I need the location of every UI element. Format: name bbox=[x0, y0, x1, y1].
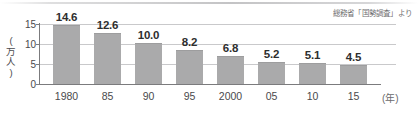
bar bbox=[176, 50, 203, 84]
y-tick-mark bbox=[36, 84, 40, 85]
y-tick-label: 15 bbox=[2, 19, 36, 30]
bar-value-label: 5.2 bbox=[249, 48, 295, 60]
y-axis-labels: 051015 bbox=[0, 0, 36, 114]
y-tick-label: 5 bbox=[2, 59, 36, 70]
bar-value-label: 6.8 bbox=[208, 42, 254, 54]
chart-page: 総務省「国勢調査」より ( 万 人 ) 051015 (年) 14.619801… bbox=[0, 0, 418, 114]
bar-value-label: 14.6 bbox=[44, 11, 90, 23]
x-tick-label: 15 bbox=[331, 90, 377, 102]
bar-value-label: 12.6 bbox=[85, 19, 131, 31]
x-axis-line bbox=[39, 84, 381, 85]
y-tick-mark bbox=[36, 44, 40, 45]
bar-value-label: 4.5 bbox=[331, 51, 377, 63]
bar bbox=[135, 43, 162, 84]
bar bbox=[94, 33, 121, 84]
y-tick-label: 10 bbox=[2, 39, 36, 50]
bar bbox=[217, 56, 244, 84]
x-tick-label: 1980 bbox=[44, 90, 90, 102]
x-tick-label: 85 bbox=[85, 90, 131, 102]
x-tick-label: 10 bbox=[290, 90, 336, 102]
bar bbox=[53, 25, 80, 84]
x-tick-label: 90 bbox=[126, 90, 172, 102]
x-tick-label: 05 bbox=[249, 90, 295, 102]
bar-value-label: 8.2 bbox=[167, 36, 213, 48]
x-axis-unit-label: (年) bbox=[382, 90, 399, 105]
bar-value-label: 10.0 bbox=[126, 29, 172, 41]
x-tick-label: 2000 bbox=[208, 90, 254, 102]
bar bbox=[340, 65, 367, 84]
bar-value-label: 5.1 bbox=[290, 49, 336, 61]
x-tick-label: 95 bbox=[167, 90, 213, 102]
bar bbox=[258, 62, 285, 84]
bar bbox=[299, 63, 326, 84]
y-tick-mark bbox=[36, 24, 40, 25]
bar-chart: ( 万 人 ) 051015 (年) 14.6198012.68510.0908… bbox=[0, 0, 418, 114]
y-tick-label: 0 bbox=[2, 79, 36, 90]
y-tick-mark bbox=[36, 64, 40, 65]
